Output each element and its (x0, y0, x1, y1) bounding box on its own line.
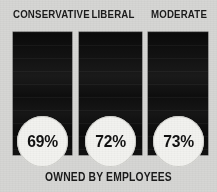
value-label-liberal: 72% (95, 133, 125, 150)
category-label-moderate: MODERATE (150, 7, 208, 21)
value-circle-moderate: 73% (153, 116, 204, 167)
value-circle-liberal: 72% (85, 116, 136, 167)
value-label-conservative: 69% (27, 133, 57, 150)
category-label-liberal: LIBERAL (84, 7, 142, 21)
category-label-conservative: CONSERVATIVE (13, 7, 71, 21)
chart-caption: OWNED BY EMPLOYEES (15, 170, 202, 185)
value-label-moderate: 73% (163, 133, 193, 150)
value-circle-conservative: 69% (17, 116, 68, 167)
employee-ownership-bar-chart: CONSERVATIVE LIBERAL MODERATE 69% 72% 73… (0, 0, 217, 192)
